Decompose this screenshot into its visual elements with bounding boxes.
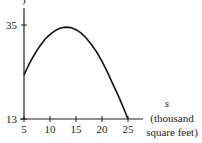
x-axis-unit-line2: square feet): [146, 126, 198, 139]
x-tick-label: 15: [71, 123, 83, 135]
x-tick-label: 20: [97, 123, 109, 135]
x-axis-variable: s: [165, 97, 169, 109]
chart: 5101520251335 ) s (thousand square feet): [0, 0, 202, 143]
x-axis-unit-line1: (thousand: [150, 112, 194, 125]
x-tick-label: 5: [21, 123, 27, 135]
y-tick-label: 13: [6, 113, 18, 125]
data-curve: [24, 27, 128, 119]
y-tick-label: 35: [6, 19, 18, 31]
x-tick-label: 25: [123, 123, 135, 135]
x-tick-label: 10: [45, 123, 57, 135]
top-cut-label: ): [22, 0, 26, 6]
